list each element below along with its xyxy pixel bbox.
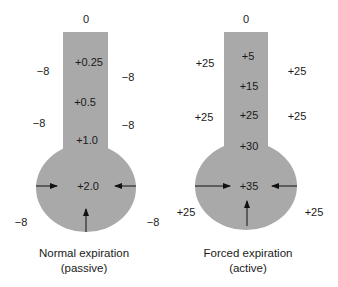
normal-column-value: +1.0 — [76, 134, 98, 146]
normal-bulb-value: +2.0 — [77, 180, 99, 192]
normal-outside-right: −8 — [122, 119, 135, 131]
normal-caption-subtitle: (passive) — [39, 261, 129, 276]
normal-caption: Normal expiration (passive) — [39, 246, 129, 276]
normal-outside-left: −8 — [33, 117, 46, 129]
forced-column-value: +30 — [240, 140, 259, 152]
normal-outside-right: −8 — [147, 216, 160, 228]
forced-top-label: 0 — [243, 13, 249, 25]
diagram-canvas — [0, 0, 338, 287]
forced-column-value: +25 — [240, 109, 259, 121]
forced-outside-left: +25 — [177, 206, 196, 218]
forced-caption-subtitle: (active) — [204, 261, 293, 276]
forced-caption: Forced expiration (active) — [204, 246, 293, 276]
forced-caption-title: Forced expiration — [204, 246, 293, 261]
forced-outside-right: +25 — [288, 65, 307, 77]
forced-bulb-value: +35 — [240, 180, 259, 192]
forced-outside-left: +25 — [195, 111, 214, 123]
normal-outside-left: −8 — [37, 65, 50, 77]
forced-column-value: +15 — [240, 80, 259, 92]
normal-column-value: +0.5 — [74, 96, 96, 108]
normal-top-label: 0 — [83, 13, 89, 25]
normal-caption-title: Normal expiration — [39, 246, 129, 261]
normal-outside-left: −8 — [15, 216, 28, 228]
forced-outside-right: +25 — [305, 206, 324, 218]
forced-column-value: +5 — [242, 50, 255, 62]
normal-outside-right: −8 — [122, 71, 135, 83]
normal-column-value: +0.25 — [75, 56, 103, 68]
forced-outside-left: +25 — [196, 57, 215, 69]
forced-outside-right: +25 — [288, 110, 307, 122]
